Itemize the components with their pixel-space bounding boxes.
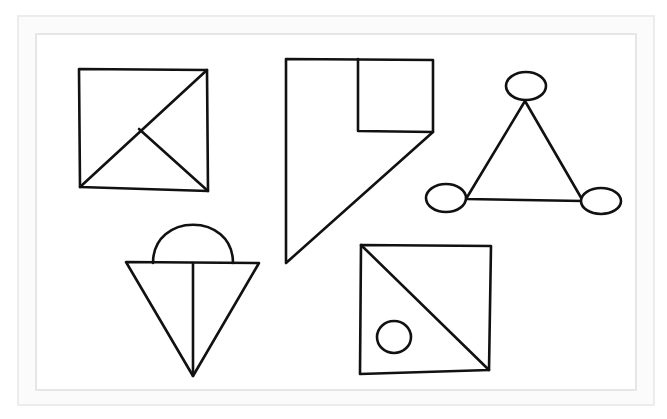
shape-inverted-triangle-with-dome — [126, 225, 259, 376]
shape-flag-with-square — [286, 59, 433, 263]
shape-triangle-with-ellipses — [426, 72, 621, 214]
shape-square-with-diagonal-and-circle — [360, 245, 491, 374]
diagram-canvas — [0, 0, 667, 419]
shape-square-with-triangles — [79, 69, 208, 191]
